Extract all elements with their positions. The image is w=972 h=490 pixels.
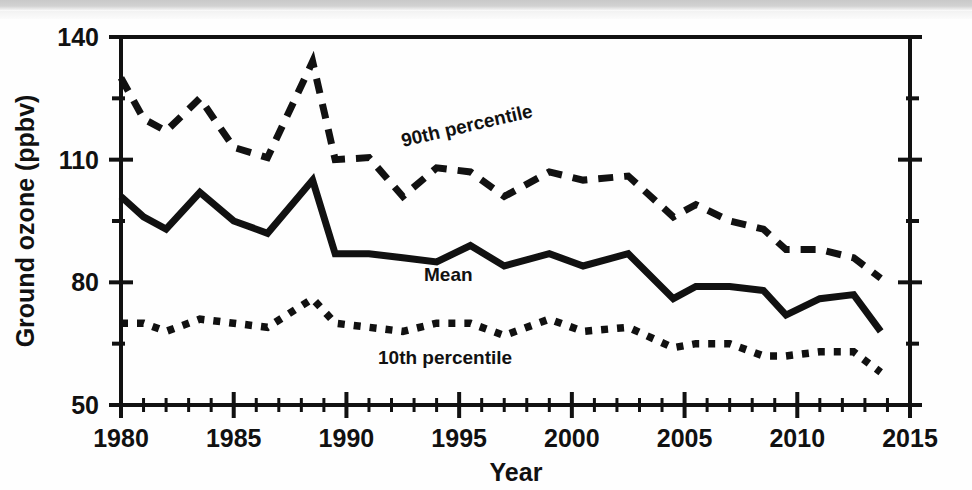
x-tick-label: 2005 [657, 424, 713, 452]
y-tick-label: 110 [59, 146, 99, 174]
x-tick-label: 2010 [769, 424, 825, 452]
figure-page: 1401108050 19801985199019952000200520102… [0, 0, 972, 490]
y-tick-label: 140 [57, 23, 99, 51]
series-label-mean: Mean [424, 264, 473, 285]
y-tick-label: 50 [71, 391, 99, 419]
y-tick-label: 80 [71, 268, 99, 296]
x-tick-label: 1990 [319, 424, 375, 452]
x-axis-title: Year [490, 458, 543, 486]
x-tick-label: 2015 [882, 424, 938, 452]
x-tick-label: 2000 [544, 424, 600, 452]
series-label-10th-percentile: 10th percentile [378, 347, 512, 368]
series-label-90th-percentile: 90th percentile [399, 100, 534, 151]
series-path-dashed [121, 62, 881, 279]
x-axis-tick-labels: 19801985199019952000200520102015 [93, 424, 938, 452]
series-path-solid [121, 180, 881, 331]
x-tick-label: 1995 [431, 424, 487, 452]
y-axis-tick-labels: 1401108050 [57, 23, 99, 419]
y-axis-title: Ground ozone (ppbv) [11, 95, 39, 348]
x-tick-label: 1985 [206, 424, 262, 452]
ozone-line-chart: 1401108050 19801985199019952000200520102… [0, 0, 972, 490]
x-tick-label: 1980 [93, 424, 149, 452]
